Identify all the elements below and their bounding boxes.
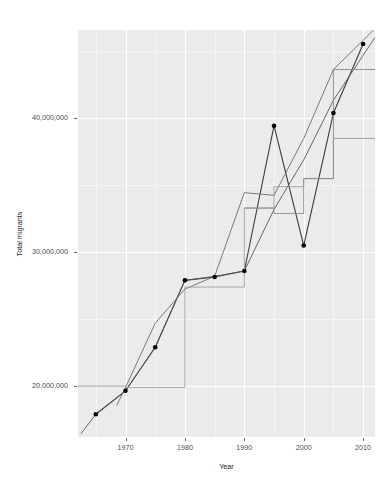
- y-tick-mark: [74, 118, 77, 119]
- series-line-observed-points: [96, 44, 363, 414]
- y-tick-label: 20,000,000: [0, 382, 68, 389]
- y-tick-label: 40,000,000: [0, 114, 68, 121]
- y-tick-label: 30,000,000: [0, 248, 68, 255]
- y-tick-mark: [74, 386, 77, 387]
- data-point: [272, 123, 277, 128]
- y-tick-mark: [74, 252, 77, 253]
- data-point: [361, 42, 366, 47]
- series-group: [78, 30, 375, 434]
- data-point: [212, 275, 217, 280]
- plot-panel: [78, 30, 375, 437]
- series-line-revision-d: [244, 70, 375, 214]
- x-tick-mark: [185, 438, 186, 441]
- series-line-revision-a: [81, 37, 375, 433]
- series-line-revision-c: [78, 138, 375, 387]
- chart-figure: Total migrants Year 20,000,00030,000,000…: [0, 0, 383, 494]
- x-tick-label: 1970: [106, 444, 146, 451]
- data-point: [242, 269, 247, 274]
- x-tick-label: 1980: [165, 444, 205, 451]
- series-layer: [78, 30, 375, 437]
- x-tick-mark: [363, 438, 364, 441]
- x-tick-mark: [244, 438, 245, 441]
- data-point: [331, 111, 336, 116]
- data-points-group: [94, 42, 366, 417]
- data-point: [94, 412, 99, 417]
- x-tick-mark: [126, 438, 127, 441]
- x-axis-title: Year: [78, 462, 375, 471]
- x-tick-mark: [304, 438, 305, 441]
- x-tick-label: 2000: [284, 444, 324, 451]
- x-tick-label: 1990: [224, 444, 264, 451]
- data-point: [123, 389, 128, 394]
- data-point: [153, 345, 158, 350]
- x-tick-label: 2010: [343, 444, 383, 451]
- data-point: [183, 278, 188, 283]
- data-point: [301, 243, 306, 248]
